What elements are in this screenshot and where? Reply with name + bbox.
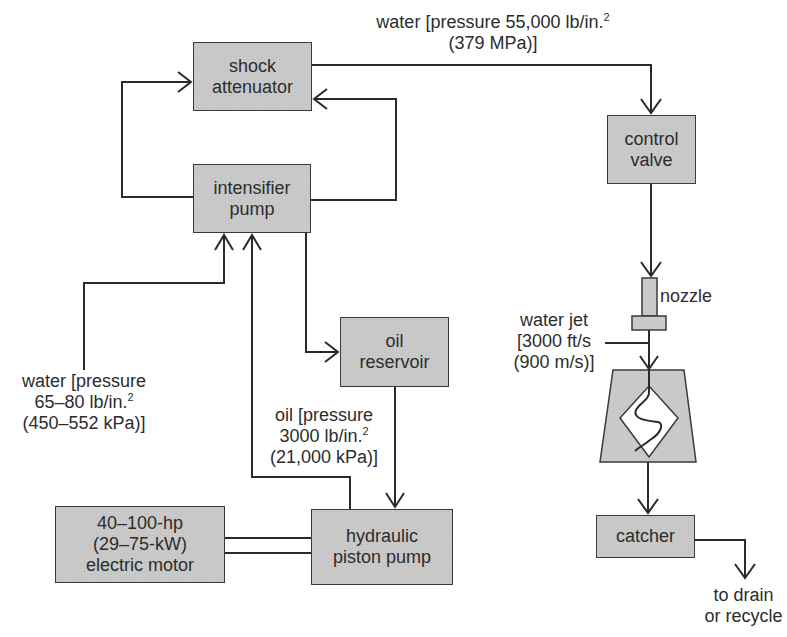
- intensifier-pump-label-1: intensifier: [213, 178, 290, 199]
- water-jet-annotation: water jet [3000 ft/s (900 m/s)]: [506, 310, 602, 373]
- catcher-label: catcher: [616, 526, 675, 547]
- left-loop-line: [122, 82, 193, 197]
- nozzle-label: nozzle: [660, 286, 712, 307]
- water-jet-line1: water jet: [506, 310, 602, 331]
- control-valve-label-2: valve: [624, 150, 678, 171]
- hp-water-line1: water [pressure 55,000 lb/in.: [376, 12, 603, 32]
- drain-line2: or recycle: [700, 606, 787, 627]
- intensifier-pump-box: intensifier pump: [193, 164, 311, 233]
- control-valve-box: control valve: [607, 115, 696, 184]
- oil-return-line: [306, 233, 338, 352]
- water-jet-line2: [3000 ft/s: [506, 331, 602, 352]
- oil-reservoir-label-1: oil: [359, 331, 429, 352]
- oil-reservoir-label-2: reservoir: [359, 352, 429, 373]
- shock-attenuator-box: shock attenuator: [193, 42, 312, 111]
- oil-pressure-annotation: oil [pressure 3000 lb/in.2 (21,000 kPa)]: [254, 405, 394, 468]
- shock-attenuator-label-1: shock: [212, 56, 293, 77]
- inlet-water-line: [84, 235, 224, 370]
- hydraulic-piston-pump-box: hydraulic piston pump: [311, 509, 453, 585]
- inlet-water-annotation: water [pressure 65–80 lb/in.2 (450–552 k…: [12, 371, 156, 434]
- electric-motor-label-3: electric motor: [86, 555, 194, 576]
- inlet-water-sup: 2: [127, 391, 133, 403]
- oil-pressure-sup: 2: [362, 425, 368, 437]
- water-jet-line3: (900 m/s)]: [506, 352, 602, 373]
- hydraulic-pump-label-2: piston pump: [333, 547, 431, 568]
- electric-motor-label-2: (29–75-kW): [86, 534, 194, 555]
- oil-pressure-line2: 3000 lb/in.: [279, 426, 362, 446]
- hp-water-line2: (379 MPa)]: [358, 33, 628, 54]
- catcher-box: catcher: [596, 515, 695, 558]
- jet-housing-icon: [600, 370, 696, 462]
- electric-motor-label-1: 40–100-hp: [86, 513, 194, 534]
- drain-annotation: to drain or recycle: [700, 585, 787, 627]
- inlet-water-line2: 65–80 lb/in.: [34, 392, 127, 412]
- drain-line1: to drain: [700, 585, 787, 606]
- inlet-water-line3: (450–552 kPa)]: [12, 413, 156, 434]
- control-valve-label-1: control: [624, 129, 678, 150]
- right-loop-line: [311, 99, 396, 200]
- oil-reservoir-box: oil reservoir: [340, 317, 449, 387]
- intensifier-pump-label-2: pump: [213, 199, 290, 220]
- inlet-water-line1: water [pressure: [12, 371, 156, 392]
- high-pressure-line: [312, 65, 651, 113]
- hp-water-sup: 2: [604, 11, 610, 23]
- shock-attenuator-label-2: attenuator: [212, 77, 293, 98]
- oil-pressure-line3: (21,000 kPa)]: [254, 447, 394, 468]
- drain-line: [695, 540, 745, 578]
- oil-pressure-line1: oil [pressure: [254, 405, 394, 426]
- electric-motor-box: 40–100-hp (29–75-kW) electric motor: [55, 506, 225, 583]
- high-pressure-water-annotation: water [pressure 55,000 lb/in.2 (379 MPa)…: [358, 12, 628, 54]
- hydraulic-pump-label-1: hydraulic: [333, 526, 431, 547]
